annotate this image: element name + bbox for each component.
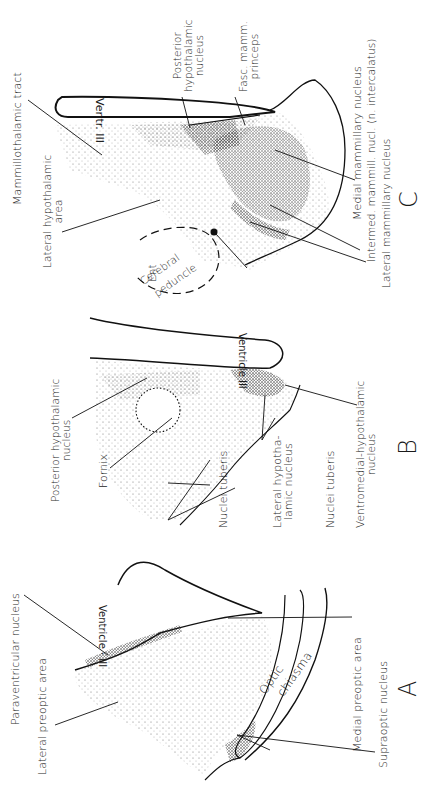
label-lateral-hypothalamic-area: Lateral hypothalamic area	[42, 155, 64, 268]
section-b	[72, 318, 357, 525]
section-c	[28, 80, 366, 294]
label-nuclei-tuberis-a: Nuclei tuberis	[218, 451, 229, 528]
section-letter-a: A	[394, 681, 422, 697]
label-ventricle-a: Ventricle · III	[97, 605, 108, 667]
label-posterior-hypothalamic-nucleus-b: Posterior hypothalamic nucleus	[50, 379, 72, 502]
label-posterior-b-line2: nucleus	[61, 379, 72, 502]
label-supraoptic-nucleus: Supraoptic nucleus	[378, 661, 389, 768]
label-medial-mammillary-nucleus: Medial mammillary nucleus	[352, 66, 363, 220]
label-posterior-c-line3: nucleus	[194, 19, 205, 92]
label-ent: Ent	[147, 264, 158, 282]
label-ventromedial-line2: nucleus	[366, 381, 377, 528]
section-letter-c: C	[395, 191, 423, 208]
label-lateral-hypothalamic-area-line2: area	[53, 155, 64, 268]
label-ventromedial-hypothalamic-nucleus: Ventromedial-hypothalamic nucleus	[355, 381, 377, 528]
label-fasc-mamm-princeps: Fasc. mamm. princeps	[238, 21, 260, 92]
section-c-ventricle-outline	[56, 97, 275, 117]
label-lateral-hypothalamic-nucleus: Lateral hypotha- lamic nucleus	[272, 435, 294, 528]
label-intermed-mammillary-nucleus: Intermed. mammill. nucl. (n. intercalatu…	[366, 39, 377, 262]
label-lateral-mammillary-nucleus: Lateral mammillary nucleus	[381, 139, 392, 288]
label-fasc-mamm-line2: princeps	[249, 21, 260, 92]
label-posterior-hypothalamic-nucleus-c: Posterior hypothalamic nucleus	[172, 19, 205, 92]
label-medial-preoptic-area: Medial preoptic area	[352, 637, 363, 752]
section-letter-b: B	[394, 439, 422, 455]
label-fornix: Fornix	[98, 454, 109, 488]
label-ventricle-b: Ventricle III	[237, 333, 248, 389]
label-lateral-preoptic-area: Lateral preoptic area	[37, 658, 48, 775]
label-ventricle-c: Ventr. III	[93, 98, 106, 143]
label-nuclei-tuberis-b: Nuclei tuberis	[325, 451, 336, 528]
section-b-ventricle-outline	[90, 318, 283, 368]
label-mammillothalamic-tract: Mammillothalamic tract	[12, 72, 23, 205]
label-paraventricular-nucleus: Paraventricular nucleus	[10, 593, 21, 725]
section-a	[24, 562, 375, 780]
label-lateral-hypo-nuc-line2: lamic nucleus	[283, 435, 294, 528]
fornix-circle	[136, 388, 180, 432]
